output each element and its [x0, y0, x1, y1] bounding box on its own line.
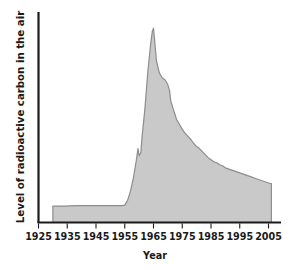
x-tick-label: 1995: [226, 231, 253, 242]
x-tick-label: 1945: [83, 231, 110, 242]
x-tick-label: 1985: [198, 231, 225, 242]
x-tick-labels: 192519351945195519651975198519952005: [25, 231, 282, 242]
x-tick-label: 2005: [255, 231, 282, 242]
chart-figure: 192519351945195519651975198519952005 Yea…: [0, 0, 307, 270]
x-tick-label: 1955: [111, 231, 138, 242]
x-axis-title: Year: [142, 250, 167, 261]
radiocarbon-area-chart: 192519351945195519651975198519952005 Yea…: [0, 0, 307, 270]
x-tick-label: 1935: [54, 231, 81, 242]
x-tick-label: 1925: [25, 231, 52, 242]
y-axis-title: Level of radioactive carbon in the air: [15, 11, 26, 223]
x-tick-label: 1975: [169, 231, 196, 242]
x-tick-label: 1965: [140, 231, 167, 242]
